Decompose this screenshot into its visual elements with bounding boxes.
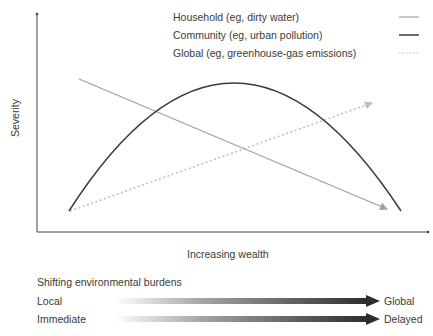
burden-to-delayed: Delayed: [384, 313, 423, 325]
gradient-bar: [115, 298, 367, 304]
legend-household-label: Household (eg, dirty water): [173, 11, 299, 23]
legend-community-label: Community (eg, urban pollution): [173, 29, 322, 41]
y-axis-label: Severity: [9, 103, 21, 137]
y-axis-tip: [36, 13, 39, 16]
x-axis-label: Increasing wealth: [187, 248, 269, 260]
global-series-line: [70, 103, 372, 211]
x-axis-tip: [427, 231, 430, 234]
gradient-bar: [115, 316, 367, 322]
community-series-curve: [69, 83, 401, 211]
burden-from-local: Local: [37, 295, 62, 307]
burdens-title: Shifting environmental burdens: [37, 276, 182, 288]
arrowhead-icon: [366, 313, 380, 325]
household-series-line: [79, 79, 387, 209]
burden-from-immediate: Immediate: [37, 313, 86, 325]
burden-to-global: Global: [384, 295, 414, 307]
legend-global-label: Global (eg, greenhouse-gas emissions): [173, 47, 356, 59]
arrowhead-icon: [366, 295, 380, 307]
